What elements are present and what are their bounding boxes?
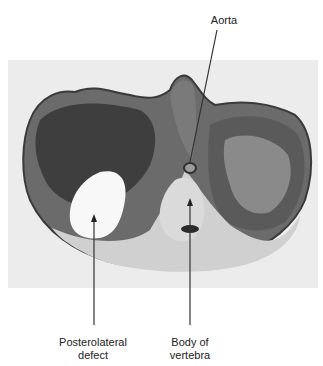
specimen-cross-section [0,0,323,366]
label-posterolateral-defect-line1: Posterolateral [48,336,138,349]
label-aorta: Aorta [204,14,244,27]
label-body-of-vertebra-line2: vertebra [160,349,220,362]
label-posterolateral-defect-line2: defect [48,349,138,362]
label-body-of-vertebra: Body of vertebra [160,336,220,362]
label-body-of-vertebra-line1: Body of [160,336,220,349]
label-posterolateral-defect: Posterolateral defect [48,336,138,362]
